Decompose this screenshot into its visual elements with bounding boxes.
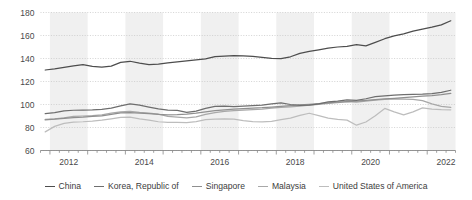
y-tick-label: 140 — [20, 54, 34, 64]
y-tick-label: 180 — [20, 8, 34, 18]
legend-item-label: Malaysia — [272, 182, 306, 191]
x-tick-label: 2012 — [59, 157, 78, 167]
legend-line-icon — [45, 186, 55, 187]
chart-plot-area: 6080100120140160180 20122014201620182020… — [0, 0, 472, 172]
series-line-united-states-of-america — [45, 108, 451, 132]
legend-line-icon — [319, 186, 329, 187]
legend-line-icon — [192, 186, 202, 187]
x-tick-label: 2020 — [361, 157, 380, 167]
x-tick-label: 2016 — [210, 157, 229, 167]
legend-item-china[interactable]: China — [45, 182, 81, 191]
y-tick-label: 60 — [25, 146, 35, 156]
legend-item-label: United States of America — [333, 182, 428, 191]
y-axis-tick-labels: 6080100120140160180 — [20, 8, 34, 156]
legend-item-singapore[interactable]: Singapore — [192, 182, 245, 191]
y-tick-label: 160 — [20, 31, 34, 41]
chart-screenshot: 6080100120140160180 20122014201620182020… — [0, 0, 472, 200]
series-line-china — [45, 21, 451, 70]
legend-item-label: Singapore — [206, 182, 245, 191]
legend-line-icon — [94, 186, 104, 187]
legend-item-label: China — [59, 182, 81, 191]
legend-line-icon — [258, 186, 268, 187]
legend-item-united-states-of-america[interactable]: United States of America — [319, 182, 428, 191]
legend-item-label: Korea, Republic of — [108, 182, 179, 191]
x-axis-tick-labels: 201220142016201820202022 — [59, 157, 455, 167]
y-tick-label: 120 — [20, 77, 34, 87]
horizontal-gridlines — [41, 13, 456, 151]
chart-legend: ChinaKorea, Republic ofSingaporeMalaysia… — [0, 174, 472, 198]
data-series-lines — [45, 21, 451, 132]
x-tick-label: 2022 — [437, 157, 456, 167]
series-line-singapore — [45, 93, 451, 119]
x-tick-label: 2018 — [286, 157, 305, 167]
legend-item-malaysia[interactable]: Malaysia — [258, 182, 306, 191]
y-tick-label: 100 — [20, 100, 34, 110]
line-chart-svg: 6080100120140160180 20122014201620182020… — [0, 0, 472, 172]
legend-item-korea-republic-of[interactable]: Korea, Republic of — [94, 182, 179, 191]
x-axis-ticks — [41, 151, 456, 155]
y-tick-label: 80 — [25, 123, 35, 133]
x-tick-label: 2014 — [135, 157, 154, 167]
